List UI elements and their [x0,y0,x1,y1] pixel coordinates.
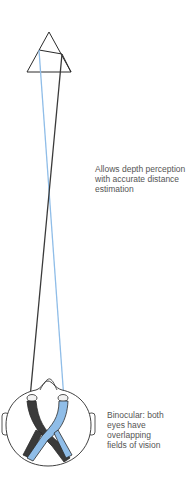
object-front-triangle [39,50,71,72]
depth-perception-annotation: Allows depth perception with accurate di… [95,164,185,194]
depth-line-3: estimation [95,184,185,194]
target-object-icon [27,32,71,72]
depth-line-2: with accurate distance [95,174,185,184]
right-eye [58,395,68,402]
left-eye-sightline [30,54,62,398]
binocular-annotation: Binocular: both eyes have overlapping fi… [107,410,164,450]
left-eye [27,395,37,402]
binocular-line-4: fields of vision [107,440,164,450]
binocular-line-3: overlapping [107,430,164,440]
binocular-line-2: eyes have [107,420,164,430]
right-eye-sightline [39,50,64,400]
depth-line-1: Allows depth perception [95,164,185,174]
binocular-line-1: Binocular: both [107,410,164,420]
head-top-view-icon [2,379,95,466]
